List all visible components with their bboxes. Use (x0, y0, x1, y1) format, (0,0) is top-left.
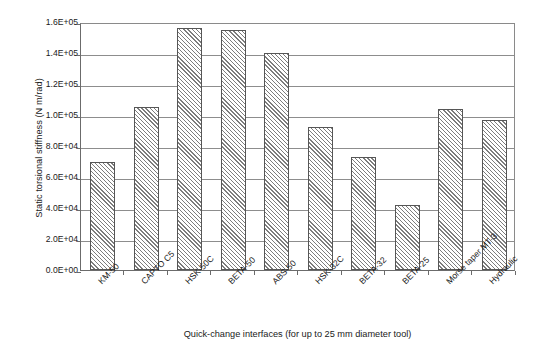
y-axis-tick-labels: 0.0E+002.0E+044.0E+046.0E+048.0E+041.0E+… (34, 0, 78, 349)
x-axis-tick-mark (297, 271, 298, 275)
y-axis-tick-label: 8.0E+04 (34, 142, 78, 151)
bar[interactable] (177, 28, 202, 270)
y-axis-tick-label: 1.6E+05 (34, 18, 78, 27)
x-axis-tick-mark (384, 271, 385, 275)
y-axis-tick-label: 1.0E+05 (34, 111, 78, 120)
y-axis-tick-label: 6.0E+04 (34, 173, 78, 182)
x-axis-tick-mark (167, 271, 168, 275)
x-axis-tick-mark (515, 271, 516, 275)
bar[interactable] (308, 127, 333, 270)
x-axis-tick-mark (428, 271, 429, 275)
y-axis-tick-label: 0.0E+00 (34, 266, 78, 275)
x-axis-title: Quick-change interfaces (for up to 25 mm… (80, 329, 515, 339)
y-axis-tick-label: 1.4E+05 (34, 49, 78, 58)
y-axis-tick-label: 2.0E+04 (34, 235, 78, 244)
x-axis-tick-mark (210, 271, 211, 275)
bar[interactable] (351, 157, 376, 270)
bar[interactable] (90, 162, 115, 271)
bars-group (81, 24, 514, 270)
x-axis-tick-mark (471, 271, 472, 275)
plot-area (80, 23, 515, 271)
y-axis-tick-label: 4.0E+04 (34, 204, 78, 213)
bar-chart-figure: Static torsional stiffness (N m/rad) 0.0… (0, 0, 543, 349)
x-axis-tick-mark (123, 271, 124, 275)
x-axis-tick-mark (254, 271, 255, 275)
x-axis-tick-mark (341, 271, 342, 275)
bar[interactable] (395, 205, 420, 270)
bar[interactable] (438, 109, 463, 270)
bar[interactable] (264, 53, 289, 270)
y-axis-tick-label: 1.2E+05 (34, 80, 78, 89)
bar[interactable] (221, 30, 246, 270)
bar[interactable] (134, 107, 159, 270)
